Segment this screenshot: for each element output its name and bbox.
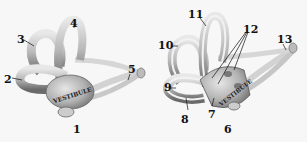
label-2: 2	[4, 74, 12, 85]
label-12: 12	[243, 24, 258, 35]
label-11: 11	[188, 9, 203, 20]
right-labyrinth: VESTIBULE	[168, 16, 297, 110]
label-7: 7	[208, 109, 216, 120]
labyrinth-illustration: VESTIBULE VESTIBULE	[0, 0, 307, 142]
label-5: 5	[128, 64, 136, 75]
label-3: 3	[17, 34, 25, 45]
caption-1: 1	[73, 124, 81, 135]
inner-ear-diagram: VESTIBULE VESTIBULE	[0, 0, 307, 142]
label-10: 10	[158, 40, 173, 51]
label-9: 9	[164, 82, 172, 93]
label-8: 8	[181, 114, 189, 125]
label-4: 4	[70, 18, 78, 29]
caption-6: 6	[224, 124, 232, 135]
left-labyrinth: VESTIBULE	[12, 20, 145, 117]
label-13: 13	[277, 34, 292, 45]
